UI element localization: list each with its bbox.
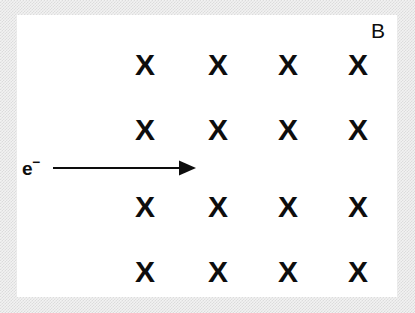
velocity-arrow — [17, 15, 397, 297]
velocity-arrow-head — [179, 161, 196, 176]
magnetic-field-panel: XXXXXXXXXXXXXXXX B e− — [17, 15, 397, 297]
diagram-canvas: XXXXXXXXXXXXXXXX B e− — [0, 0, 415, 313]
